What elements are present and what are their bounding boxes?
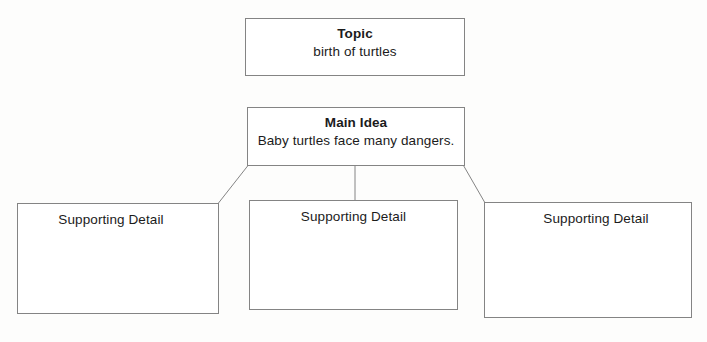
main-idea-heading: Main Idea — [248, 115, 464, 132]
supporting-detail-box-3: Supporting Detail — [484, 202, 692, 318]
supporting-detail-label-3: Supporting Detail — [493, 211, 699, 226]
graphic-organizer: Topic birth of turtles Main Idea Baby tu… — [0, 0, 707, 342]
main-idea-box: Main Idea Baby turtles face many dangers… — [247, 107, 465, 166]
topic-body: birth of turtles — [246, 43, 464, 61]
supporting-detail-box-2: Supporting Detail — [249, 200, 458, 310]
supporting-detail-box-1: Supporting Detail — [17, 203, 219, 314]
topic-box: Topic birth of turtles — [245, 18, 465, 76]
supporting-detail-label-2: Supporting Detail — [250, 209, 457, 224]
main-idea-body: Baby turtles face many dangers. — [248, 132, 464, 150]
connector-right — [464, 166, 485, 203]
supporting-detail-label-1: Supporting Detail — [11, 212, 211, 227]
topic-heading: Topic — [246, 26, 464, 43]
connector-left — [219, 166, 249, 204]
